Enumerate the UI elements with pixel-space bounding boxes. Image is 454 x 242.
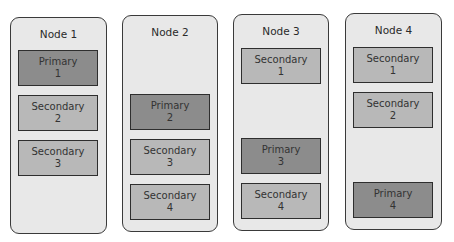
replica-secondary-4: Secondary 4 — [241, 183, 321, 219]
replica-role: Secondary — [255, 189, 308, 201]
replica-id: 1 — [390, 65, 396, 77]
replica-id: 2 — [390, 110, 396, 122]
node-3: Node 3 Secondary 1 Primary 3 Secondary 4 — [233, 14, 329, 231]
replica-role: Secondary — [32, 101, 85, 113]
replica-secondary-4: Secondary 4 — [130, 184, 210, 220]
replica-id: 3 — [55, 158, 61, 170]
replica-id: 4 — [278, 201, 284, 213]
replica-id: 1 — [55, 68, 61, 80]
replica-role: Primary — [151, 100, 190, 112]
node-4: Node 4 Secondary 1 Secondary 2 Primary 4 — [345, 13, 442, 230]
replica-role: Secondary — [255, 54, 308, 66]
replica-id: 1 — [278, 66, 284, 78]
node-title: Node 1 — [11, 28, 106, 40]
replica-role: Secondary — [367, 98, 420, 110]
node-title: Node 2 — [123, 26, 217, 38]
replica-id: 4 — [167, 202, 173, 214]
replica-secondary-3: Secondary 3 — [18, 140, 98, 176]
replica-role: Primary — [39, 56, 78, 68]
replica-primary-2: Primary 2 — [130, 94, 210, 130]
replica-secondary-2: Secondary 2 — [18, 95, 98, 131]
replica-primary-1: Primary 1 — [18, 50, 98, 86]
replica-id: 3 — [278, 156, 284, 168]
replica-role: Primary — [374, 188, 413, 200]
replica-secondary-1: Secondary 1 — [241, 48, 321, 84]
node-1: Node 1 Primary 1 Secondary 2 Secondary 3 — [10, 17, 107, 234]
replica-role: Primary — [262, 144, 301, 156]
replica-secondary-1: Secondary 1 — [353, 47, 433, 83]
replica-id: 2 — [55, 113, 61, 125]
replica-secondary-2: Secondary 2 — [353, 92, 433, 128]
replica-id: 4 — [390, 200, 396, 212]
replica-primary-3: Primary 3 — [241, 138, 321, 174]
replica-role: Secondary — [144, 190, 197, 202]
node-title: Node 4 — [346, 24, 441, 36]
replica-role: Secondary — [144, 145, 197, 157]
replica-id: 2 — [167, 112, 173, 124]
node-title: Node 3 — [234, 25, 328, 37]
replica-primary-4: Primary 4 — [353, 182, 433, 218]
replica-id: 3 — [167, 157, 173, 169]
node-2: Node 2 Primary 2 Secondary 3 Secondary 4 — [122, 15, 218, 232]
replica-role: Secondary — [32, 146, 85, 158]
replica-role: Secondary — [367, 53, 420, 65]
replica-secondary-3: Secondary 3 — [130, 139, 210, 175]
